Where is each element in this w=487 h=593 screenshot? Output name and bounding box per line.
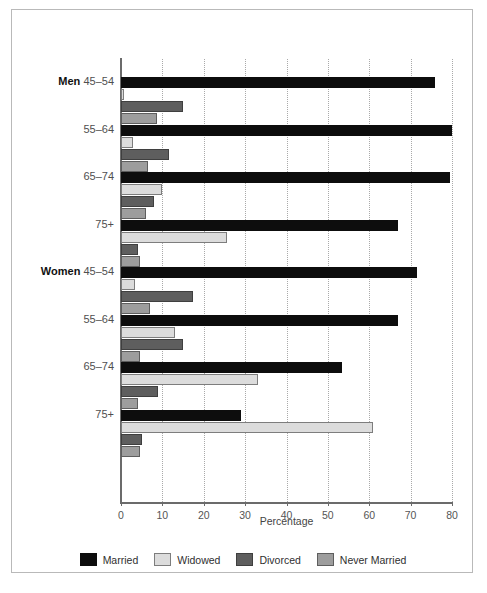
group-age-label: 75+ — [95, 408, 114, 420]
figure-frame: 01020304050607080 Men 45–5455–6465–7475+… — [11, 9, 473, 573]
bar-widowed[interactable] — [121, 89, 124, 100]
bar-married[interactable] — [121, 267, 417, 278]
group-age-label: 65–74 — [83, 170, 114, 182]
group-axis-label: 55–64 — [83, 123, 114, 135]
tick-mark-0 — [121, 502, 122, 506]
bar-nevermarried[interactable] — [121, 446, 140, 457]
bar-row — [121, 89, 452, 100]
bar-married[interactable] — [121, 77, 435, 88]
legend-item-divorced[interactable]: Divorced — [236, 553, 300, 566]
bar-widowed[interactable] — [121, 137, 133, 148]
bar-row — [121, 101, 452, 112]
group-gender-label: Men — [58, 75, 83, 87]
bar-row — [121, 244, 452, 255]
bar-nevermarried[interactable] — [121, 161, 148, 172]
bar-nevermarried[interactable] — [121, 256, 140, 267]
bar-group-women-45-54: Women 45–54 — [121, 267, 452, 315]
bar-row — [121, 279, 452, 290]
bar-group-55-64: 55–64 — [121, 315, 452, 363]
legend-swatch-divorced — [236, 553, 253, 566]
bar-divorced[interactable] — [121, 244, 138, 255]
bar-group-55-64: 55–64 — [121, 125, 452, 173]
legend-label-married: Married — [103, 554, 139, 566]
bar-row — [121, 137, 452, 148]
tick-mark-10 — [162, 502, 163, 506]
bar-row — [121, 208, 452, 219]
bar-married[interactable] — [121, 362, 342, 373]
bar-widowed[interactable] — [121, 184, 162, 195]
bar-nevermarried[interactable] — [121, 113, 157, 124]
bar-row — [121, 161, 452, 172]
bar-married[interactable] — [121, 125, 452, 136]
bar-row — [121, 315, 452, 326]
tick-mark-70 — [411, 502, 412, 506]
bar-widowed[interactable] — [121, 279, 135, 290]
bar-row — [121, 374, 452, 385]
x-axis-title: Percentage — [121, 515, 452, 527]
bar-married[interactable] — [121, 172, 450, 183]
legend-swatch-nevermarried — [317, 553, 334, 566]
bar-row — [121, 184, 452, 195]
bar-row — [121, 362, 452, 373]
bar-row — [121, 196, 452, 207]
bar-married[interactable] — [121, 410, 241, 421]
bar-row — [121, 232, 452, 243]
bar-row — [121, 267, 452, 278]
tick-mark-80 — [452, 502, 453, 506]
bar-row — [121, 339, 452, 350]
plot-area: 01020304050607080 Men 45–5455–6465–7475+… — [121, 59, 452, 502]
bar-row — [121, 351, 452, 362]
bar-group-75+: 75+ — [121, 220, 452, 268]
bar-row — [121, 422, 452, 433]
bar-row — [121, 386, 452, 397]
legend-item-widowed[interactable]: Widowed — [154, 553, 220, 566]
bar-divorced[interactable] — [121, 386, 158, 397]
bar-divorced[interactable] — [121, 339, 183, 350]
bar-divorced[interactable] — [121, 196, 154, 207]
bar-divorced[interactable] — [121, 101, 183, 112]
legend-label-divorced: Divorced — [259, 554, 300, 566]
bar-row — [121, 220, 452, 231]
group-axis-label: Men 45–54 — [58, 75, 114, 87]
group-age-label: 55–64 — [83, 313, 114, 325]
tick-mark-60 — [369, 502, 370, 506]
bar-row — [121, 434, 452, 445]
bar-row — [121, 303, 452, 314]
bar-widowed[interactable] — [121, 232, 227, 243]
group-axis-label: Women 45–54 — [41, 265, 114, 277]
bar-divorced[interactable] — [121, 434, 142, 445]
bar-divorced[interactable] — [121, 149, 169, 160]
bar-widowed[interactable] — [121, 374, 258, 385]
gridline-80 — [452, 59, 454, 502]
bar-widowed[interactable] — [121, 422, 373, 433]
bar-widowed[interactable] — [121, 327, 175, 338]
group-axis-label: 75+ — [95, 408, 114, 420]
bar-married[interactable] — [121, 315, 398, 326]
bar-row — [121, 77, 452, 88]
group-axis-label: 55–64 — [83, 313, 114, 325]
bar-nevermarried[interactable] — [121, 351, 140, 362]
legend-label-nevermarried: Never Married — [340, 554, 407, 566]
group-axis-label: 65–74 — [83, 170, 114, 182]
group-age-label: 65–74 — [83, 360, 114, 372]
tick-mark-40 — [287, 502, 288, 506]
tick-mark-50 — [328, 502, 329, 506]
bar-row — [121, 291, 452, 302]
group-gender-label: Women — [41, 265, 84, 277]
bar-row — [121, 113, 452, 124]
bar-row — [121, 172, 452, 183]
legend-label-widowed: Widowed — [177, 554, 220, 566]
legend-item-married[interactable]: Married — [80, 553, 139, 566]
legend-item-nevermarried[interactable]: Never Married — [317, 553, 407, 566]
chart-legend: MarriedWidowedDivorcedNever Married — [12, 553, 474, 566]
bar-nevermarried[interactable] — [121, 303, 150, 314]
bar-row — [121, 410, 452, 421]
bar-row — [121, 149, 452, 160]
bar-group-65-74: 65–74 — [121, 172, 452, 220]
bar-divorced[interactable] — [121, 291, 193, 302]
bar-married[interactable] — [121, 220, 398, 231]
tick-mark-20 — [204, 502, 205, 506]
legend-swatch-widowed — [154, 553, 171, 566]
bar-nevermarried[interactable] — [121, 208, 146, 219]
bar-nevermarried[interactable] — [121, 398, 138, 409]
